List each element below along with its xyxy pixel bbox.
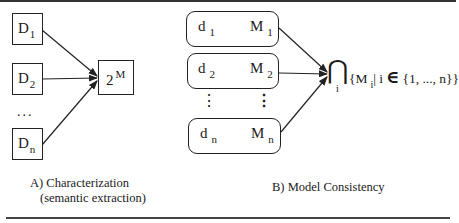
mapping-box-n: dn Mn <box>188 118 281 154</box>
powerset-label: 2M <box>106 72 125 89</box>
element-of-icon: ∈ <box>386 67 399 87</box>
input-box-d1: D1 <box>12 13 43 45</box>
input-box-d2: D2 <box>12 63 43 95</box>
powerset-box: 2M <box>98 60 134 95</box>
input-box-dn: Dn <box>12 128 43 160</box>
mapping-domain-1: d1 <box>198 18 215 35</box>
intersection-set-expression: {Mi| i∈{1, ..., n}} <box>349 66 459 88</box>
mapping-box-2: d2 M2 <box>187 53 279 89</box>
vertical-ellipsis-right: ⋮ <box>256 91 274 110</box>
caption-a-line2: (semantic extraction) <box>40 191 146 206</box>
intersection-icon: ⋂ <box>327 55 348 86</box>
mapping-model-n: Mn <box>251 125 274 142</box>
caption-b: B) Model Consistency <box>272 180 385 195</box>
input-label-dn: Dn <box>18 135 35 152</box>
vertical-ellipsis-left: ⋮ <box>201 91 219 110</box>
mapping-domain-2: d2 <box>198 60 215 77</box>
input-label-d2: D2 <box>18 70 35 87</box>
bottom-rule <box>6 217 450 219</box>
input-label-d1: D1 <box>18 20 35 37</box>
ellipsis: ... <box>17 104 34 120</box>
caption-a-line1: A) Characterization <box>30 176 129 191</box>
mapping-model-1: M1 <box>250 18 273 35</box>
mapping-model-2: M2 <box>250 60 273 77</box>
mapping-box-1: d1 M1 <box>186 11 279 47</box>
intersection-index: i <box>336 83 339 94</box>
mapping-domain-n: dn <box>200 125 217 142</box>
